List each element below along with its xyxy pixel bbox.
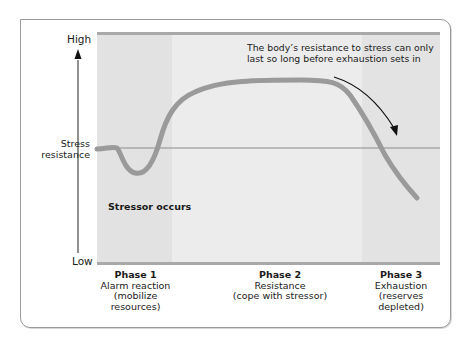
phase-3-line2: (reserves (366, 291, 436, 302)
annotation-line1: The body’s resistance to stress can only (247, 42, 437, 53)
phase-2-title: Phase 2 (215, 270, 345, 281)
phase-2-line2: (cope with stressor) (215, 291, 345, 302)
phase-1-line3: resources) (88, 302, 183, 313)
phase-1-label: Phase 1 Alarm reaction (mobilize resourc… (88, 270, 183, 312)
y-axis-high-label: High (67, 34, 91, 45)
y-axis-title: Stress resistance (26, 138, 90, 160)
phase-3-title: Phase 3 (366, 270, 436, 281)
annotation-text: The body’s resistance to stress can only… (247, 42, 437, 64)
y-axis-title-line2: resistance (26, 149, 90, 160)
phase-3-line3: depleted) (366, 302, 436, 313)
y-axis-low-label: Low (72, 256, 93, 267)
phase-1-title: Phase 1 (88, 270, 183, 281)
phase-3-label: Phase 3 Exhaustion (reserves depleted) (366, 270, 436, 312)
annotation-line2: last so long before exhaustion sets in (247, 53, 437, 64)
phase-1-line2: (mobilize (88, 291, 183, 302)
phase-2-label: Phase 2 Resistance (cope with stressor) (215, 270, 345, 302)
y-axis-title-line1: Stress (26, 138, 90, 149)
stressor-label: Stressor occurs (108, 201, 191, 212)
